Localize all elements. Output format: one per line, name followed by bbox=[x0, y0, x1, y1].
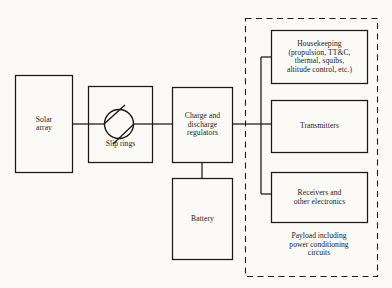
block-label-slip-rings: Slip rings bbox=[88, 140, 153, 149]
block-housekeeping bbox=[272, 31, 368, 84]
block-transmitters bbox=[272, 101, 368, 153]
block-battery bbox=[173, 179, 233, 260]
block-receivers-and-other-electronics bbox=[272, 173, 368, 223]
payload-caption: Payload including power conditioning cir… bbox=[255, 232, 383, 258]
block-solar-array bbox=[16, 76, 73, 173]
block-charge-and-discharge-regulators bbox=[173, 88, 233, 163]
block-diagram: Solar array Slip rings Charge and discha… bbox=[0, 0, 392, 288]
